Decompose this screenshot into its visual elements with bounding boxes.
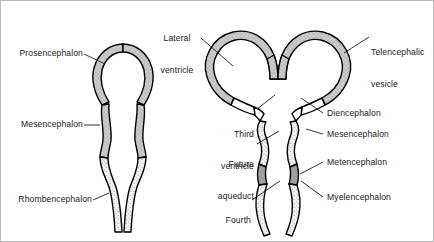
label-lateral-ventricle-line2: ventricle	[151, 65, 203, 76]
label-lateral-ventricle: Lateral ventricle	[151, 12, 203, 97]
brain-vesicle-diagram: Prosencephalon Mesencephalon Rhombenceph…	[0, 0, 434, 242]
label-telencephalic-vesicle-line2: vesicle	[371, 79, 434, 90]
label-fourth-ventricle-line1: Fourth	[197, 215, 251, 226]
diencephalon-neck-left	[254, 107, 264, 121]
label-mesencephalon-right: Mesencephalon	[327, 129, 431, 140]
leader-third-ventricle	[257, 95, 275, 109]
mesencephalon-wall-right	[135, 104, 146, 158]
mesencephalon-wall-left-right-figure	[257, 121, 268, 167]
leader-myelencephalon	[301, 181, 323, 197]
prosencephalon-wall-left	[93, 44, 123, 105]
leader-rhombencephalon	[93, 193, 109, 200]
telencephalic-vesicle-wall-left	[205, 31, 278, 105]
label-rhombencephalon: Rhombencephalon	[2, 194, 92, 205]
label-metencephalon: Metencephalon	[327, 157, 431, 168]
label-telencephalic-vesicle-line1: Telencephalic	[371, 47, 434, 58]
label-mesencephalon-left: Mesencephalon	[7, 119, 83, 130]
telencephalic-vesicle-wall-right	[278, 31, 351, 105]
telencephalic-median-saddle-2	[278, 55, 289, 79]
label-future-aqueduct-line1: Future	[200, 159, 254, 170]
myelencephalon-wall-left	[256, 184, 270, 236]
rhombencephalon-wall-left	[100, 157, 122, 232]
leader-mesencephalon-right	[306, 129, 323, 134]
rhombencephalon-wall-right	[124, 157, 146, 232]
leader-telencephalic-vesicle	[344, 37, 369, 53]
label-myelencephalon: Myelencephalon	[327, 192, 431, 203]
left-figure-three-vesicles	[93, 44, 153, 232]
leader-metencephalon	[300, 162, 323, 174]
telencephalic-median-saddle	[267, 55, 278, 79]
diencephalon-neck-right	[292, 107, 302, 121]
prosencephalon-wall-right	[123, 44, 153, 105]
myelencephalon-wall-right	[286, 184, 300, 236]
label-lateral-ventricle-line1: Lateral	[151, 33, 203, 44]
label-diencephalon: Diencephalon	[327, 108, 431, 119]
mesencephalon-wall-left	[100, 104, 111, 158]
label-telencephalic-vesicle: Telencephalic vesicle	[371, 26, 434, 111]
label-prosencephalon: Prosencephalon	[7, 48, 83, 59]
mesencephalon-wall-right-right-figure	[287, 121, 298, 167]
label-fourth-ventricle: Fourth ventricle	[197, 194, 251, 242]
